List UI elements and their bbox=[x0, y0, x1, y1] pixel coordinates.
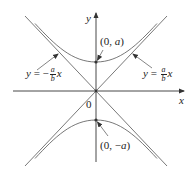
asym-right-var: x bbox=[168, 67, 173, 79]
asym-right-den: b bbox=[162, 75, 166, 83]
leader-lower-vertex bbox=[98, 122, 109, 136]
asym-left-var: x bbox=[57, 67, 62, 79]
vertex-lower-prefix: (0, − bbox=[100, 139, 121, 151]
vertex-upper-dot bbox=[94, 60, 97, 63]
x-axis-label: x bbox=[179, 95, 184, 106]
asymptote-left-label: y = −abx bbox=[26, 66, 62, 83]
asym-right-fraction: ab bbox=[161, 66, 167, 83]
vertex-lower-label: (0, −a) bbox=[100, 140, 130, 151]
origin-dot bbox=[95, 90, 98, 93]
leader-upper-vertex bbox=[98, 50, 104, 60]
vertex-lower-dot bbox=[94, 118, 97, 121]
origin-label: 0 bbox=[86, 99, 92, 110]
diagram-graphic bbox=[0, 0, 195, 169]
asym-left-den: b bbox=[51, 75, 55, 83]
asym-right-eq: = bbox=[148, 67, 160, 79]
vertex-upper-suffix: ) bbox=[120, 35, 124, 47]
vertex-upper-prefix: (0, bbox=[100, 35, 115, 47]
asym-left-eq: = − bbox=[31, 67, 49, 79]
vertex-lower-suffix: ) bbox=[126, 139, 130, 151]
asymptote-right-label: y = abx bbox=[143, 66, 173, 83]
vertex-upper-label: (0, a) bbox=[100, 36, 124, 47]
y-axis-label: y bbox=[86, 13, 91, 24]
hyperbola-diagram: y x 0 (0, a) (0, −a) y = −abx y = abx bbox=[0, 0, 195, 169]
asym-left-fraction: ab bbox=[50, 66, 56, 83]
